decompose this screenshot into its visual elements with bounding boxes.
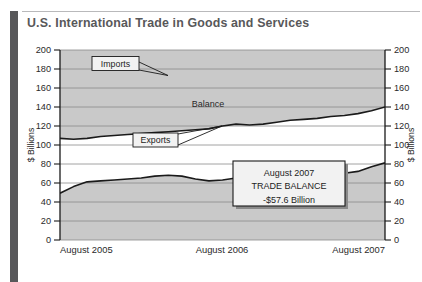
y-tick-right-180: 180 (394, 64, 409, 74)
imports-label: Imports (101, 59, 131, 69)
y-tick-left-40: 40 (41, 197, 51, 207)
y-tick-left-140: 140 (36, 102, 51, 112)
y-tick-left-60: 60 (41, 178, 51, 188)
trade-balance-callout-line3: -$57.6 Billion (263, 195, 315, 205)
y-tick-right-160: 160 (394, 83, 409, 93)
balance-label: Balance (192, 99, 225, 109)
x-tick-august-2007: August 2007 (332, 244, 385, 255)
y-tick-left-180: 180 (36, 64, 51, 74)
y-tick-right-40: 40 (394, 197, 404, 207)
y-tick-left-80: 80 (41, 159, 51, 169)
y-tick-right-20: 20 (394, 216, 404, 226)
y-axis-left-ticks (54, 50, 60, 240)
y-tick-left-100: 100 (36, 140, 51, 150)
y-axis-right-title: $ Billions (406, 128, 416, 162)
y-tick-right-60: 60 (394, 178, 404, 188)
y-axis-left-title: $ Billions (26, 128, 36, 162)
y-tick-left-160: 160 (36, 83, 51, 93)
x-tick-august-2005: August 2005 (60, 244, 113, 255)
trade-chart-plot: 0 20 40 60 80 100 120 140 160 180 200 0 … (0, 0, 422, 282)
chart-figure: U.S. International Trade in Goods and Se… (0, 0, 422, 282)
trade-balance-callout-line1: August 2007 (264, 168, 315, 178)
y-tick-right-140: 140 (394, 102, 409, 112)
y-tick-left-200: 200 (36, 45, 51, 55)
x-tick-august-2006: August 2006 (196, 244, 249, 255)
y-tick-right-0: 0 (394, 235, 399, 245)
y-tick-left-0: 0 (46, 235, 51, 245)
y-tick-left-20: 20 (41, 216, 51, 226)
y-tick-right-80: 80 (394, 159, 404, 169)
exports-label: Exports (141, 135, 171, 145)
y-tick-left-120: 120 (36, 121, 51, 131)
trade-balance-callout-line2: TRADE BALANCE (251, 181, 326, 191)
y-tick-right-200: 200 (394, 45, 409, 55)
y-axis-right-ticks (385, 50, 391, 240)
